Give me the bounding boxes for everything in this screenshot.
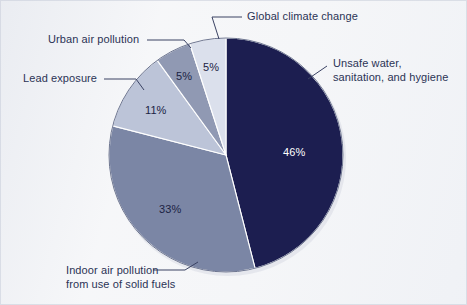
value-label-unsafe-water: 46% [283, 146, 305, 158]
leader-line-unsafe-water [308, 66, 327, 79]
label-unsafe-water[interactable]: Unsafe water, sanitation, and hygiene [333, 57, 461, 84]
leader-line-global-climate-change [212, 17, 242, 39]
label-unsafe-water-line1: Unsafe water, [333, 57, 461, 71]
label-indoor-air-pollution[interactable]: Indoor air pollution from use of solid f… [66, 264, 201, 291]
value-label-global-climate-change: 5% [203, 61, 219, 73]
chart-figure: Global climate change Urban air pollutio… [0, 0, 467, 305]
label-global-climate-change-text: Global climate change [247, 10, 358, 22]
label-lead-exposure-text: Lead exposure [23, 72, 97, 84]
pie-slices [109, 38, 343, 272]
label-indoor-air-pollution-line2: from use of solid fuels [66, 278, 201, 292]
value-label-urban-air-pollution: 5% [176, 70, 192, 82]
label-urban-air-pollution-text: Urban air pollution [48, 33, 139, 45]
label-lead-exposure[interactable]: Lead exposure [23, 72, 97, 86]
label-unsafe-water-line2: sanitation, and hygiene [333, 71, 461, 85]
label-global-climate-change[interactable]: Global climate change [247, 10, 358, 24]
value-label-indoor-air-pollution: 33% [159, 203, 181, 215]
value-label-lead-exposure: 11% [145, 104, 167, 116]
label-urban-air-pollution[interactable]: Urban air pollution [48, 33, 139, 47]
label-indoor-air-pollution-line1: Indoor air pollution [66, 264, 201, 278]
